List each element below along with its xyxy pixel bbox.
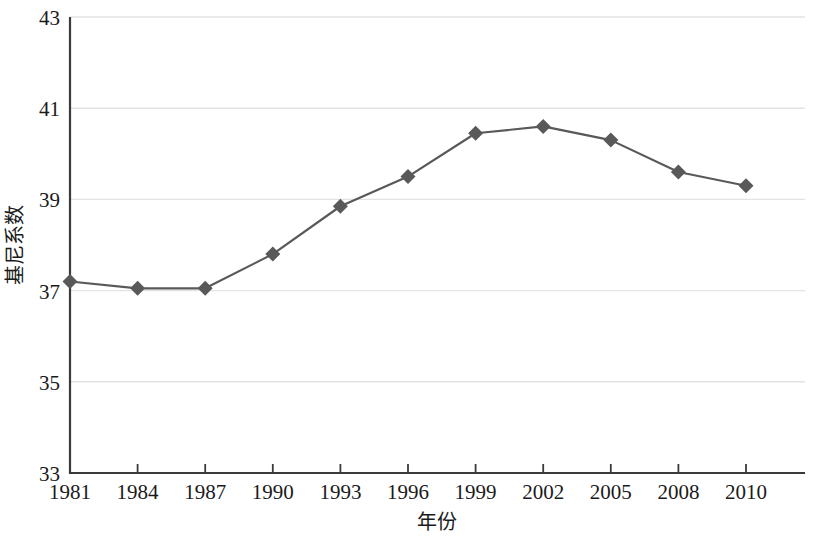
gridline-group — [70, 17, 805, 382]
data-point-marker — [671, 165, 686, 180]
y-tick-label-group: 333537394143 — [39, 6, 60, 486]
x-tick-mark-group — [70, 464, 746, 473]
x-tick-label: 2010 — [725, 480, 767, 504]
data-point-marker — [468, 126, 483, 141]
x-tick-label: 2005 — [590, 480, 632, 504]
y-tick-label: 39 — [39, 188, 60, 212]
x-axis-title: 年份 — [417, 510, 457, 534]
y-tick-label: 35 — [39, 371, 60, 395]
y-tick-label: 43 — [39, 6, 60, 30]
x-tick-label: 1984 — [117, 480, 160, 504]
data-point-marker — [130, 281, 145, 296]
gini-coefficient-line-chart: 333537394143 198119841987199019931996199… — [0, 0, 814, 539]
series-marker-group — [63, 119, 754, 296]
data-point-marker — [401, 169, 416, 184]
y-axis-title: 基尼系数 — [3, 205, 27, 285]
y-tick-label: 37 — [39, 280, 60, 304]
data-point-marker — [603, 133, 618, 148]
x-tick-label: 1996 — [387, 480, 429, 504]
data-point-marker — [198, 281, 213, 296]
y-tick-label: 41 — [39, 97, 60, 121]
x-tick-label: 1999 — [455, 480, 497, 504]
chart-canvas: 333537394143 198119841987199019931996199… — [0, 0, 814, 539]
x-tick-label: 1993 — [319, 480, 361, 504]
data-point-marker — [739, 178, 754, 193]
data-point-marker — [333, 199, 348, 214]
x-tick-label: 1981 — [49, 480, 91, 504]
axis-group — [70, 17, 805, 473]
x-tick-label: 2008 — [657, 480, 699, 504]
x-tick-label: 2002 — [522, 480, 564, 504]
data-point-marker — [63, 274, 78, 289]
data-point-marker — [536, 119, 551, 134]
axis-lines — [70, 17, 805, 473]
x-tick-label-group: 1981198419871990199319961999200220052008… — [49, 480, 767, 504]
data-series-group — [63, 119, 754, 296]
data-point-marker — [265, 247, 280, 262]
x-tick-label: 1990 — [252, 480, 294, 504]
x-tick-label: 1987 — [184, 480, 226, 504]
series-line-gini — [70, 126, 746, 288]
